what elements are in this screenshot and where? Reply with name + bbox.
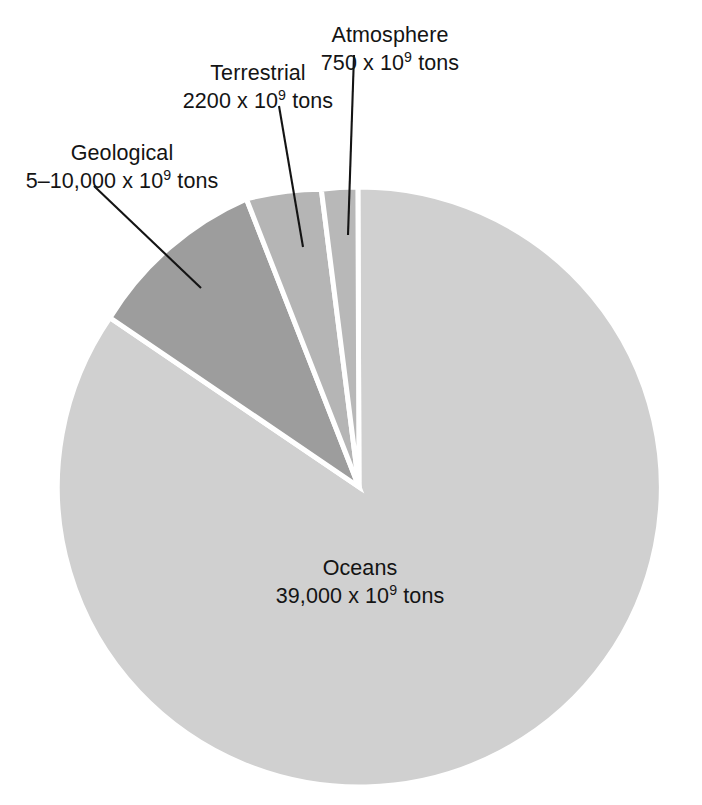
slice-label-oceans-value: 39,000 x 109 tons — [240, 583, 480, 611]
callout-terrestrial-value-unit: tons — [286, 89, 333, 113]
slice-label-oceans-value-prefix: 39,000 — [276, 584, 342, 608]
callout-geological-value: 5–10,000 x 109 tons — [8, 168, 236, 196]
callout-atmosphere-value-prefix: 750 — [321, 51, 357, 75]
pie-chart-figure: Geological 5–10,000 x 109 tons Terrestri… — [0, 0, 702, 805]
pie-chart-canvas — [0, 0, 702, 805]
slice-label-oceans-value-unit: tons — [397, 584, 444, 608]
callout-atmosphere-value-unit: tons — [412, 51, 459, 75]
callout-geological-name: Geological — [8, 140, 236, 168]
slice-label-oceans-value-multiplier: x 10 — [342, 584, 389, 608]
callout-terrestrial-value-multiplier: x 10 — [231, 89, 278, 113]
slice-label-oceans: Oceans 39,000 x 109 tons — [240, 555, 480, 611]
callout-terrestrial-value-exponent: 9 — [278, 87, 286, 103]
callout-atmosphere-value-multiplier: x 10 — [357, 51, 404, 75]
slice-label-oceans-name: Oceans — [240, 555, 480, 583]
callout-terrestrial-value-prefix: 2200 — [183, 89, 231, 113]
callout-atmosphere-value: 750 x 109 tons — [290, 50, 490, 78]
callout-geological-value-unit: tons — [171, 169, 218, 193]
callout-atmosphere: Atmosphere 750 x 109 tons — [290, 22, 490, 78]
callout-geological: Geological 5–10,000 x 109 tons — [8, 140, 236, 196]
callout-atmosphere-name: Atmosphere — [290, 22, 490, 50]
callout-atmosphere-value-exponent: 9 — [404, 49, 412, 65]
callout-terrestrial-value: 2200 x 109 tons — [150, 88, 366, 116]
callout-geological-value-multiplier: x 10 — [116, 169, 163, 193]
callout-geological-value-prefix: 5–10,000 — [26, 169, 116, 193]
slice-label-oceans-value-exponent: 9 — [389, 582, 397, 598]
